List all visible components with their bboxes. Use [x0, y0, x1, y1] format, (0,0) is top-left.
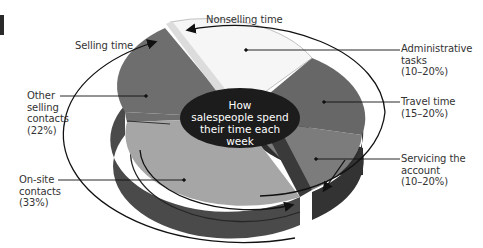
selling-time-label: Selling time — [75, 40, 133, 52]
label-travel: Travel time (15–20%) — [401, 96, 455, 119]
label-servicing: Servicing the account (10–20%) — [401, 153, 466, 188]
pie-chart: Selling time Nonselling time How salespe… — [0, 0, 483, 248]
nonselling-time-label: Nonselling time — [206, 14, 283, 26]
label-other-selling: Other selling contacts (22%) — [27, 90, 69, 136]
chart-title: How salespeople spend their time each we… — [172, 99, 308, 147]
label-admin: Administrative tasks (10–20%) — [401, 43, 472, 78]
label-onsite: On-site contacts (33%) — [19, 174, 61, 209]
